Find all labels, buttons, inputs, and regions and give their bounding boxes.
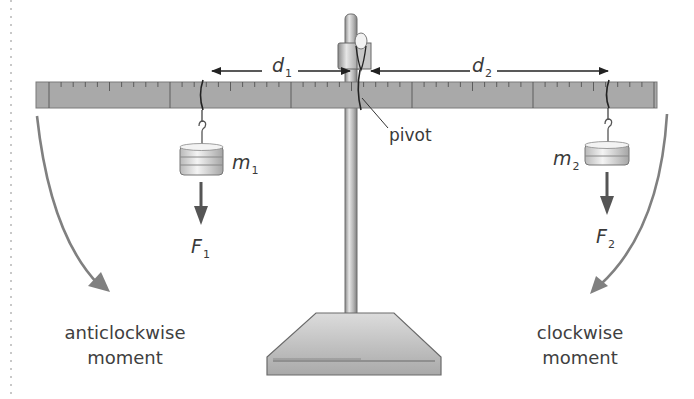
label-d1: d1 <box>272 56 292 79</box>
stand-base <box>267 313 441 375</box>
label-f2: F2 <box>596 227 615 250</box>
clockwise-line1: clockwise <box>510 320 650 345</box>
label-clockwise-moment: clockwise moment <box>510 320 650 370</box>
label-d2: d2 <box>472 56 492 79</box>
label-anticlockwise-moment: anticlockwise moment <box>40 320 210 370</box>
force-arrow-f1 <box>194 182 208 225</box>
anticlockwise-moment-arrow <box>37 116 110 292</box>
label-f1: F1 <box>191 237 210 260</box>
label-pivot: pivot <box>389 127 432 144</box>
moments-diagram: d1 d2 m1 m2 F1 F2 pivot anticlockwise mo… <box>0 0 694 399</box>
clockwise-line2: moment <box>510 345 650 370</box>
force-arrow-f2 <box>600 172 614 215</box>
clockwise-moment-arrow <box>590 114 667 294</box>
label-m2: m2 <box>553 149 580 172</box>
anticlockwise-line1: anticlockwise <box>40 320 210 345</box>
metre-rule-beam <box>36 82 657 108</box>
label-m1: m1 <box>232 153 259 176</box>
anticlockwise-line2: moment <box>40 345 210 370</box>
